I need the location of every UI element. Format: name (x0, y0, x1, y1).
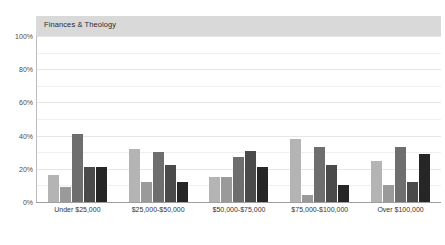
bar[interactable] (129, 149, 140, 202)
bar[interactable] (141, 182, 152, 202)
bar[interactable] (257, 167, 268, 202)
x-axis-tick-label: $75,000-$100,000 (279, 206, 360, 226)
bar[interactable] (245, 151, 256, 202)
x-axis-tick-label: Under $25,000 (37, 206, 118, 226)
chart-title-banner: Finances & Theology (36, 16, 441, 36)
bar[interactable] (314, 147, 325, 202)
bar[interactable] (383, 185, 394, 202)
y-axis-tick-label: 0% (3, 199, 33, 206)
x-axis-tick-label: $50,000-$75,000 (199, 206, 280, 226)
bar[interactable] (96, 167, 107, 202)
bar[interactable] (419, 154, 430, 202)
bar[interactable] (326, 165, 337, 202)
bar[interactable] (165, 165, 176, 202)
bar[interactable] (371, 161, 382, 203)
bar-group (118, 36, 199, 202)
bar-group (199, 36, 280, 202)
bar[interactable] (209, 177, 220, 202)
y-axis: 0%20%40%60%80%100% (0, 0, 33, 245)
y-axis-tick-label: 80% (3, 66, 33, 73)
bar[interactable] (72, 134, 83, 202)
x-axis-labels: Under $25,000$25,000-$50,000$50,000-$75,… (37, 206, 441, 226)
bar[interactable] (221, 177, 232, 202)
bar[interactable] (153, 152, 164, 202)
x-axis-tick-label: Over $100,000 (360, 206, 441, 226)
bar[interactable] (233, 157, 244, 202)
bar-chart: Finances & Theology 0%20%40%60%80%100% U… (0, 0, 445, 245)
bar[interactable] (338, 185, 349, 202)
y-axis-tick-label: 100% (3, 33, 33, 40)
y-axis-tick-label: 60% (3, 99, 33, 106)
bar[interactable] (290, 139, 301, 202)
bar[interactable] (84, 167, 95, 202)
y-axis-tick-label: 40% (3, 132, 33, 139)
bar[interactable] (60, 187, 71, 202)
x-axis-baseline (36, 202, 441, 203)
y-axis-tick-label: 20% (3, 165, 33, 172)
bar[interactable] (407, 182, 418, 202)
bar-group (37, 36, 118, 202)
bar[interactable] (395, 147, 406, 202)
bar[interactable] (177, 182, 188, 202)
chart-title: Finances & Theology (44, 20, 116, 29)
bar-group (279, 36, 360, 202)
bar[interactable] (48, 175, 59, 202)
bar-groups (37, 36, 441, 202)
bar-group (360, 36, 441, 202)
x-axis-tick-label: $25,000-$50,000 (118, 206, 199, 226)
bar[interactable] (302, 195, 313, 202)
